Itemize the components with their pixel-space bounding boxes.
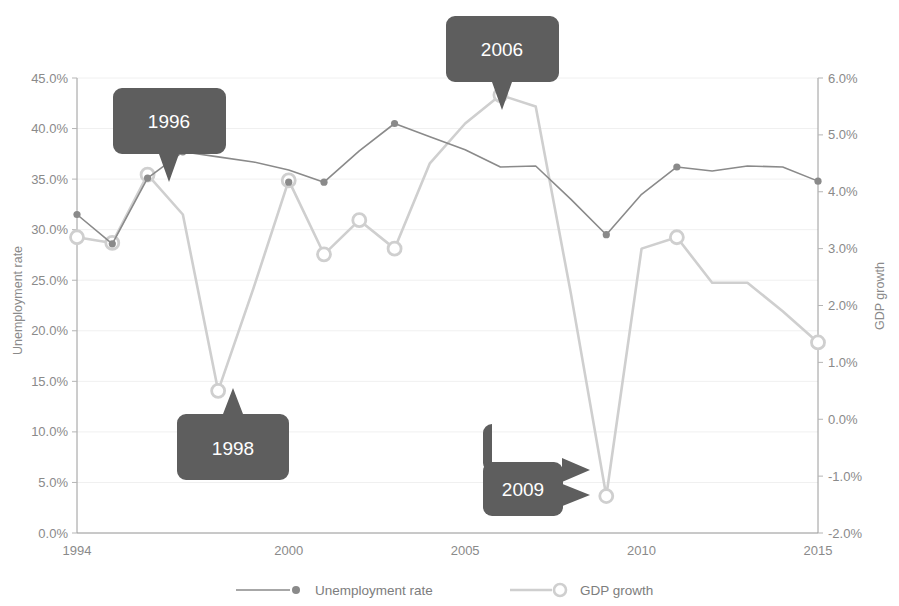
unemployment-rate-data-point[interactable] xyxy=(814,178,821,185)
right-axis-ticks: -2.0%-1.0%0.0%1.0%2.0%3.0%4.0%5.0%6.0% xyxy=(818,71,862,541)
x-tick-label: 2000 xyxy=(274,543,303,558)
x-axis-ticks: 19942000200520102015 xyxy=(63,543,833,558)
right-tick-label: 4.0% xyxy=(828,184,858,199)
left-tick-label: 0.0% xyxy=(38,526,68,541)
left-tick-label: 10.0% xyxy=(31,424,68,439)
x-tick-label: 1994 xyxy=(63,543,92,558)
callout-1998-label: 1998 xyxy=(212,438,254,459)
left-tick-label: 35.0% xyxy=(31,172,68,187)
callout-2009-pointer xyxy=(560,483,590,507)
callout-1996-bubble xyxy=(113,88,226,182)
unemployment-rate-data-point[interactable] xyxy=(109,240,116,247)
chart-container: 0.0%5.0%10.0%15.0%20.0%25.0%30.0%35.0%40… xyxy=(0,0,899,606)
right-tick-label: 2.0% xyxy=(828,298,858,313)
x-tick-label: 2010 xyxy=(627,543,656,558)
left-tick-label: 40.0% xyxy=(31,121,68,136)
unemployment-rate-data-point[interactable] xyxy=(603,231,610,238)
legend-gdp-marker-icon xyxy=(554,584,566,596)
unemployment-rate-data-point[interactable] xyxy=(391,120,398,127)
unemployment-gdp-line-chart: 0.0%5.0%10.0%15.0%20.0%25.0%30.0%35.0%40… xyxy=(0,0,899,606)
annotation-callout-1998[interactable]: 1998 xyxy=(177,388,289,480)
left-axis-title: Unemployment rate xyxy=(11,246,25,355)
unemployment-rate-data-point[interactable] xyxy=(144,175,151,182)
gdp-growth-data-point[interactable] xyxy=(353,214,366,227)
gdp-growth-data-point[interactable] xyxy=(812,336,825,349)
chart-legend: Unemployment rate GDP growth xyxy=(236,583,653,598)
left-tick-label: 5.0% xyxy=(38,475,68,490)
right-tick-label: -2.0% xyxy=(828,526,862,541)
left-tick-label: 15.0% xyxy=(31,374,68,389)
annotation-callout-2009[interactable]: 2009 xyxy=(483,424,590,516)
unemployment-rate-data-point[interactable] xyxy=(285,179,292,186)
gdp-growth-data-point[interactable] xyxy=(600,490,613,503)
legend-gdp-label: GDP growth xyxy=(580,583,653,598)
callout-2006-bubble xyxy=(446,16,559,110)
gdp-growth-data-point[interactable] xyxy=(212,384,225,397)
gdp-growth-data-point[interactable] xyxy=(318,248,331,261)
right-tick-label: -1.0% xyxy=(828,469,862,484)
annotation-callout-2006[interactable]: 2006 xyxy=(446,16,559,110)
x-tick-label: 2015 xyxy=(804,543,833,558)
right-tick-label: 1.0% xyxy=(828,355,858,370)
unemployment-rate-data-point[interactable] xyxy=(320,179,327,186)
x-tick-label: 2005 xyxy=(451,543,480,558)
right-tick-label: 5.0% xyxy=(828,127,858,142)
gdp-growth-data-point[interactable] xyxy=(71,231,84,244)
legend-item-unemployment-rate[interactable]: Unemployment rate xyxy=(236,583,433,598)
callout-2009-label: 2009 xyxy=(502,479,544,500)
legend-unemployment-label: Unemployment rate xyxy=(315,583,433,598)
unemployment-rate-data-point[interactable] xyxy=(673,163,680,170)
unemployment-rate-data-point[interactable] xyxy=(73,211,80,218)
right-axis-title: GDP growth xyxy=(873,262,887,330)
callout-2006-label: 2006 xyxy=(481,39,523,60)
left-tick-label: 45.0% xyxy=(31,71,68,86)
annotation-callout-1996[interactable]: 1996 xyxy=(113,88,226,182)
legend-item-gdp-growth[interactable]: GDP growth xyxy=(510,583,653,598)
legend-unemployment-marker-icon xyxy=(292,586,300,594)
callout-1998-bubble xyxy=(177,388,289,480)
gdp-growth-data-point[interactable] xyxy=(388,242,401,255)
callout-1996-label: 1996 xyxy=(148,111,190,132)
left-tick-label: 20.0% xyxy=(31,323,68,338)
right-tick-label: 6.0% xyxy=(828,71,858,86)
left-tick-label: 30.0% xyxy=(31,222,68,237)
right-tick-label: 3.0% xyxy=(828,241,858,256)
gdp-growth-data-point[interactable] xyxy=(670,231,683,244)
right-tick-label: 0.0% xyxy=(828,412,858,427)
left-tick-label: 25.0% xyxy=(31,273,68,288)
left-axis-ticks: 0.0%5.0%10.0%15.0%20.0%25.0%30.0%35.0%40… xyxy=(31,71,77,541)
